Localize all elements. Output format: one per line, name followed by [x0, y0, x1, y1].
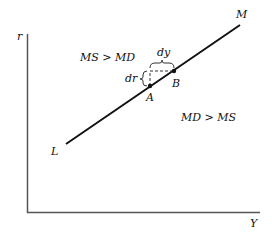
- y-axis-label: r: [17, 30, 23, 43]
- region-upper-left-label: MS > MD: [79, 51, 135, 64]
- point-a-label: A: [145, 91, 154, 104]
- point-b: [172, 69, 176, 73]
- region-lower-right-label: MD > MS: [180, 111, 237, 124]
- point-b-label: B: [171, 77, 180, 90]
- lm-diagram: r Y L M dy dr A B MS > MD MD > MS: [0, 0, 272, 236]
- x-axis-label: Y: [250, 217, 259, 230]
- lm-curve: [66, 25, 240, 144]
- dy-brace: [150, 60, 174, 68]
- dy-label: dy: [157, 46, 171, 59]
- line-start-label: L: [50, 145, 58, 158]
- point-a: [148, 84, 152, 88]
- line-end-label: M: [235, 8, 248, 21]
- dr-brace: [140, 71, 147, 86]
- dr-label: dr: [125, 72, 138, 85]
